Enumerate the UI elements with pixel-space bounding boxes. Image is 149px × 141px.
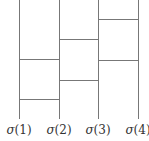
label-argument: (3)	[94, 123, 111, 137]
sigma-symbol: σ	[46, 123, 54, 137]
label-sigma-2: σ(2)	[41, 123, 77, 137]
label-argument: (1)	[15, 123, 32, 137]
label-sigma-4: σ(4)	[120, 123, 149, 137]
sigma-symbol: σ	[85, 123, 93, 137]
label-argument: (2)	[55, 123, 72, 137]
label-argument: (4)	[134, 123, 149, 137]
label-sigma-3: σ(3)	[80, 123, 116, 137]
label-sigma-1: σ(1)	[1, 123, 37, 137]
sigma-symbol: σ	[6, 123, 14, 137]
horizontal-rungs	[20, 20, 139, 100]
ladder-diagram	[0, 0, 149, 141]
sigma-symbol: σ	[125, 123, 133, 137]
